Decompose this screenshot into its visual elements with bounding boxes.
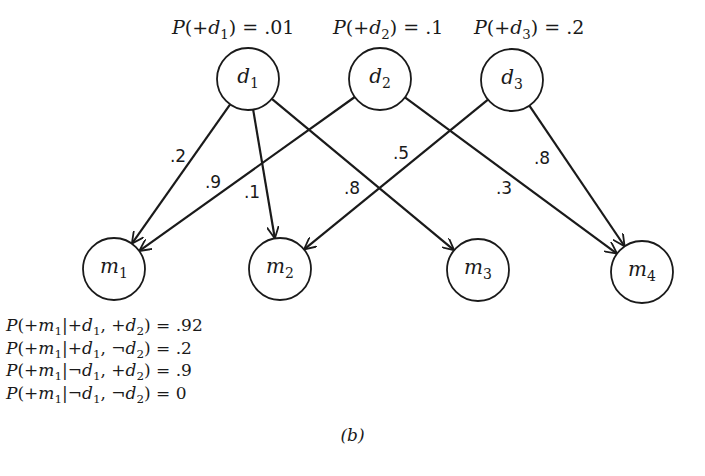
- node-label-d3: d3: [501, 65, 523, 92]
- edge-d2-m4: [405, 97, 616, 253]
- prior-d1: P(+d1) = .01: [172, 16, 294, 42]
- cpt-row: P(+m1|¬d1, ¬d2) = 0: [6, 382, 203, 405]
- figure-caption: (b): [0, 425, 705, 445]
- cpt-row: P(+m1|+d1, ¬d2) = .2: [6, 337, 203, 360]
- bayesian-network-diagram: .2.1.8.9.3.5.8d1d2d3m1m2m3m4 P(+d1) = .0…: [0, 0, 705, 476]
- edge-d3-m2: [305, 100, 488, 249]
- edge-weight-d3-m2: .5: [393, 143, 409, 163]
- cpt-row: P(+m1|¬d1, +d2) = .9: [6, 359, 203, 382]
- node-label-m2: m2: [266, 254, 294, 281]
- node-label-m3: m3: [464, 255, 492, 282]
- edge-d1-m2: [253, 110, 275, 238]
- conditional-probability-table: P(+m1|+d1, +d2) = .92P(+m1|+d1, ¬d2) = .…: [6, 314, 203, 404]
- node-label-m4: m4: [628, 257, 656, 284]
- node-label-m1: m1: [100, 254, 128, 281]
- node-label-d1: d1: [237, 64, 259, 91]
- edge-weight-d2-m4: .3: [496, 178, 512, 198]
- edge-weight-d1-m3: .8: [344, 178, 360, 198]
- prior-d2: P(+d2) = .1: [333, 16, 443, 42]
- edge-weight-d1-m2: .1: [244, 182, 260, 202]
- edge-weight-d1-m1: .2: [170, 146, 186, 166]
- edge-d2-m1: [140, 97, 355, 250]
- cpt-row: P(+m1|+d1, +d2) = .92: [6, 314, 203, 337]
- edge-weight-d3-m4: .8: [534, 148, 550, 168]
- network-graph: [0, 0, 705, 476]
- edge-d1-m3: [272, 99, 454, 250]
- prior-d3: P(+d3) = .2: [474, 16, 584, 42]
- node-label-d2: d2: [369, 64, 391, 91]
- edge-weight-d2-m1: .9: [205, 172, 221, 192]
